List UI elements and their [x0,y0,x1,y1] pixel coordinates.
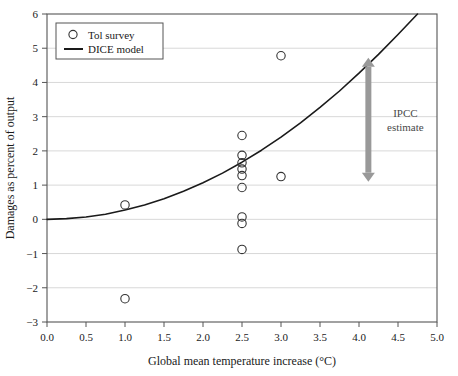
x-tick-label: 3.0 [274,331,288,343]
x-tick-label: 0.5 [79,331,93,343]
x-tick-label: 3.5 [313,331,327,343]
y-tick-label: −1 [26,248,38,260]
chart-figure: 0.00.51.01.52.02.53.03.54.04.55.0 654321… [0,0,458,376]
x-tick-label: 2.5 [235,331,249,343]
x-tick-label: 2.0 [196,331,210,343]
legend-label-dice-model: DICE model [88,43,144,55]
chart-legend: Tol survey DICE model [56,23,163,59]
y-tick-label: 1 [33,179,39,191]
y-tick-label: −3 [26,316,38,328]
y-axis-title: Damages as percent of output [3,96,17,239]
y-tick-label: 3 [33,111,39,123]
ipcc-estimate-label-line2: estimate [387,121,424,133]
x-axis-title: Global mean temperature increase (°C) [148,354,336,368]
x-tick-label: 0.0 [40,331,54,343]
y-tick-label: 0 [33,213,39,225]
y-tick-label: 5 [33,42,39,54]
y-tick-label: 6 [33,8,39,20]
x-tick-label: 5.0 [430,331,444,343]
legend-label-tol-survey: Tol survey [88,29,135,41]
x-tick-label: 4.0 [352,331,366,343]
x-tick-label: 4.5 [391,331,405,343]
damages-vs-temperature-chart: 0.00.51.01.52.02.53.03.54.04.55.0 654321… [0,0,458,376]
x-tick-label: 1.0 [118,331,132,343]
y-tick-label: −2 [26,282,38,294]
y-tick-label: 2 [33,145,39,157]
ipcc-estimate-label-line1: IPCC [393,107,417,119]
y-tick-label: 4 [33,76,39,88]
x-tick-label: 1.5 [157,331,171,343]
